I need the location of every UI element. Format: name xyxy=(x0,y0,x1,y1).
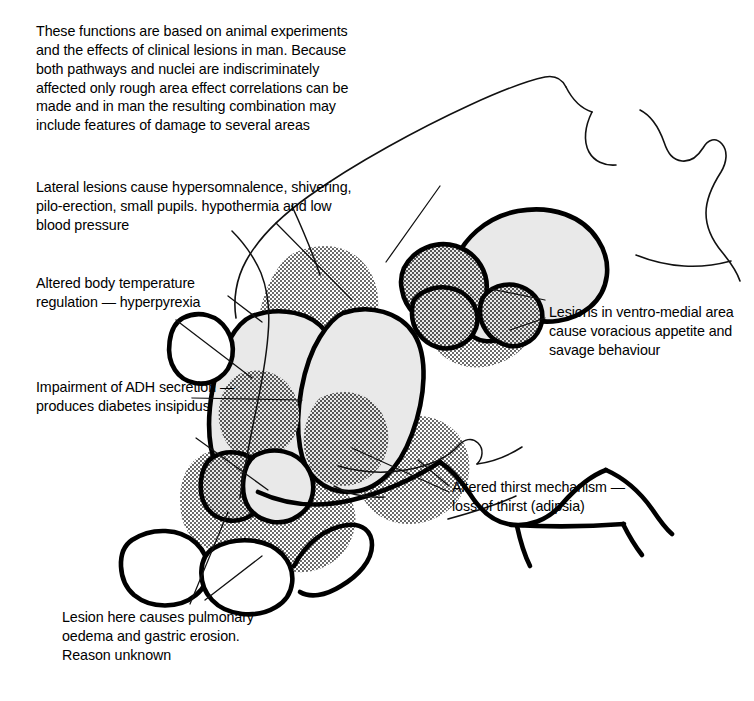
annotation-lateral-lesions: Lateral lesions cause hypersomnalence, s… xyxy=(36,178,356,235)
annotation-temperature-regulation: Altered body temperature regulation — hy… xyxy=(36,274,251,312)
medulla-stem xyxy=(517,526,530,566)
annotation-adh-impairment: Impairment of ADH secretion — produces d… xyxy=(36,378,236,416)
annotation-intro: These functions are based on animal expe… xyxy=(36,22,366,135)
preoptic-small-body xyxy=(169,314,233,383)
tuber-cinereum-body xyxy=(121,531,208,606)
pituitary-body xyxy=(201,540,292,614)
ventromedial-nucleus xyxy=(412,287,477,348)
arcuate-nucleus xyxy=(480,285,542,347)
annotation-lesion-here: Lesion here causes pulmonary oedema and … xyxy=(62,608,277,665)
cerebellar-band xyxy=(623,524,642,555)
annotation-thirst-mechanism: Altered thirst mechanism — loss of thirs… xyxy=(452,478,637,516)
annotation-ventromedial-lesions: Lesions in ventro-medial area cause vora… xyxy=(549,303,754,360)
medulla-contour xyxy=(511,524,624,526)
mamillary-body-pale xyxy=(243,451,313,523)
